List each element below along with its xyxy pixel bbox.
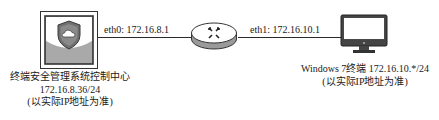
server-caption: 终端安全管理系统控制中心 172.16.8.36/24 (以实际IP地址为准) — [2, 71, 138, 109]
router-node — [190, 20, 238, 52]
server-node — [40, 11, 98, 69]
eth0-label: eth0: 172.16.8.1 — [104, 24, 169, 36]
server-name: 终端安全管理系统控制中心 — [2, 71, 138, 84]
server-ip-note: (以实际IP地址为准) — [2, 96, 138, 109]
client-name-ip: Windows 7终端 172.16.10.*/24 — [292, 63, 438, 76]
link-server-router — [98, 37, 191, 38]
monitor-icon — [340, 14, 388, 56]
server-ip: 172.16.8.36/24 — [2, 84, 138, 97]
eth1-label: eth1: 172.16.10.1 — [250, 24, 320, 36]
router-icon — [190, 20, 238, 52]
client-ip-note: (以实际IP地址为准) — [292, 76, 438, 89]
link-router-client — [238, 37, 341, 38]
client-caption: Windows 7终端 172.16.10.*/24 (以实际IP地址为准) — [292, 63, 438, 88]
shield-cloud-server-icon — [40, 11, 98, 69]
client-node — [340, 14, 388, 56]
